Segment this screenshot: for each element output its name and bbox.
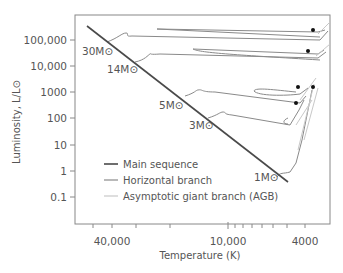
y-tick-10: 10 (54, 139, 67, 151)
x-axis (93, 222, 305, 229)
x-tick-4000: 4000 (292, 235, 319, 247)
legend: Main sequence Horizontal branch Asymptot… (104, 159, 278, 202)
y-tick-100000: 100,000 (24, 34, 67, 46)
x-tick-10000: 10,000 (210, 235, 247, 247)
y-tick-10000: 10,000 (30, 60, 67, 72)
legend-agb: Asymptotic giant branch (AGB) (123, 191, 278, 202)
y-tick-1: 1 (60, 165, 67, 177)
label-3-solar-mass: 3M⊙ (189, 119, 214, 131)
label-5-solar-mass: 5M⊙ (159, 99, 184, 111)
label-1-solar-mass: 1M⊙ (254, 171, 279, 183)
x-axis-title: Temperature (K) (159, 250, 241, 261)
legend-main-sequence: Main sequence (123, 159, 198, 170)
y-tick-0.1: 0.1 (50, 191, 67, 203)
legend-horizontal-branch: Horizontal branch (123, 175, 212, 186)
y-tick-100: 100 (47, 112, 67, 124)
label-30-solar-mass: 30M⊙ (82, 45, 113, 57)
hr-diagram: 100,000 10,000 1000 100 10 1 0.1 Luminos… (0, 0, 343, 273)
y-tick-1000: 1000 (40, 86, 67, 98)
x-tick-40000: 40,000 (94, 235, 131, 247)
y-axis (70, 40, 75, 197)
label-14-solar-mass: 14M⊙ (107, 63, 138, 75)
y-axis-title: Luminosity, L/L⊙ (11, 80, 22, 164)
